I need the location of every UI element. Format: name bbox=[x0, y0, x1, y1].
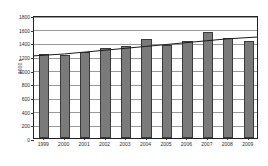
plot-area: 020040060080010001200140016001800 bbox=[33, 16, 258, 139]
y-axis-tick-label: 1800 bbox=[19, 15, 30, 20]
x-axis-tick-label: 2001 bbox=[79, 141, 90, 147]
y-axis-tick-label: 400 bbox=[22, 111, 30, 116]
y-axis-tick-label: 800 bbox=[22, 83, 30, 88]
x-axis-tick bbox=[166, 137, 167, 140]
x-axis-tick bbox=[64, 137, 65, 140]
x-axis-tick-label: 2003 bbox=[119, 141, 130, 147]
x-axis-tick-label: 2002 bbox=[99, 141, 110, 147]
x-axis-tick-label: 2007 bbox=[201, 141, 212, 147]
x-axis-tick-label: 1999 bbox=[38, 141, 49, 147]
x-axis-tick-label: 2004 bbox=[140, 141, 151, 147]
chart-figure: 1000 t 020040060080010001200140016001800… bbox=[0, 0, 268, 166]
x-axis-tick-label: 2006 bbox=[181, 141, 192, 147]
x-axis-tick-label: 2005 bbox=[160, 141, 171, 147]
x-axis-tick bbox=[43, 137, 44, 140]
x-axis-tick-label: 2009 bbox=[242, 141, 253, 147]
x-axis-tick bbox=[146, 137, 147, 140]
y-axis-tick-label: 1000 bbox=[19, 70, 30, 75]
x-axis: 1999200020012002200320042005200620072008… bbox=[33, 140, 258, 154]
y-axis-tick-label: 1600 bbox=[19, 29, 30, 34]
y-axis-tick-label: 200 bbox=[22, 124, 30, 129]
y-axis-tick-label: 0 bbox=[27, 138, 30, 143]
x-axis-tick-label: 2000 bbox=[58, 141, 69, 147]
x-axis-tick bbox=[227, 137, 228, 140]
y-axis-tick-label: 600 bbox=[22, 97, 30, 102]
x-axis-tick bbox=[248, 137, 249, 140]
x-axis-tick bbox=[125, 137, 126, 140]
y-axis-tick-label: 1200 bbox=[19, 56, 30, 61]
x-axis-tick bbox=[207, 137, 208, 140]
x-axis-tick bbox=[186, 137, 187, 140]
y-axis-tick-label: 1400 bbox=[19, 42, 30, 47]
x-axis-tick bbox=[105, 137, 106, 140]
x-axis-tick-label: 2008 bbox=[222, 141, 233, 147]
x-axis-tick bbox=[84, 137, 85, 140]
trend-line-series bbox=[34, 17, 257, 138]
